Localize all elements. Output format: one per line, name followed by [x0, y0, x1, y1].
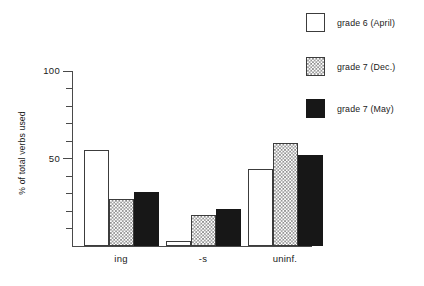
- bar-chart-plot: 100 50 % of total verbs used ing -s unin…: [0, 0, 424, 286]
- legend-item-grade6-april: grade 6 (April): [306, 12, 395, 33]
- y-axis-title: % of total verbs used: [17, 93, 27, 213]
- y-tick-major-50: [63, 158, 72, 159]
- y-tick-major-100: [63, 71, 72, 72]
- bar-ing-grade7-may: [134, 192, 159, 246]
- chart-page: 100 50 % of total verbs used ing -s unin…: [0, 0, 424, 286]
- bar-s-grade6-april: [166, 241, 191, 246]
- y-tick-label-100: 100: [26, 65, 60, 76]
- x-category-label-s: -s: [174, 253, 232, 264]
- x-category-label-uninf: uninf.: [256, 253, 314, 264]
- x-category-label-ing: ing: [92, 253, 150, 264]
- bar-uninf-grade7-may: [298, 155, 323, 246]
- legend-item-grade7-may: grade 7 (May): [306, 98, 394, 119]
- bar-s-grade7-dec: [191, 215, 216, 247]
- bar-uninf-grade7-dec: [273, 143, 298, 246]
- y-tick-label-50: 50: [26, 153, 60, 164]
- white-square-icon: [306, 13, 325, 32]
- legend-label-grade7-dec: grade 7 (Dec.): [337, 62, 395, 72]
- black-square-icon: [306, 99, 325, 118]
- bar-uninf-grade6-april: [248, 169, 273, 246]
- legend-label-grade6-april: grade 6 (April): [337, 18, 395, 28]
- bar-s-grade7-may: [216, 209, 241, 246]
- legend-item-grade7-dec: grade 7 (Dec.): [306, 56, 395, 77]
- bar-ing-grade7-dec: [109, 199, 134, 246]
- bar-ing-grade6-april: [84, 150, 109, 246]
- legend-label-grade7-may: grade 7 (May): [337, 104, 394, 114]
- bars-layer: [72, 71, 312, 246]
- dotted-square-icon: [306, 57, 325, 76]
